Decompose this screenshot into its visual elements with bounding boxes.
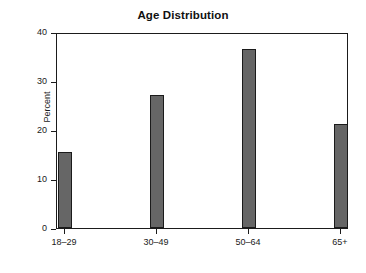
chart-figure: Age Distribution Percent 010203040 18–29…: [0, 0, 366, 273]
bar: [58, 152, 72, 228]
bars-container: [57, 34, 347, 228]
x-tick-mark: [64, 229, 65, 234]
y-tick-label: 0: [42, 224, 47, 233]
bar: [242, 49, 256, 228]
x-tick-mark: [156, 229, 157, 234]
bar: [334, 124, 348, 228]
y-tick-label: 20: [37, 126, 47, 135]
y-tick-label: 40: [37, 28, 47, 37]
x-tick-label: 30–49: [126, 237, 186, 247]
plot-area: [56, 33, 348, 229]
x-tick-label: 50–64: [218, 237, 278, 247]
x-tick-label: 65+: [310, 237, 366, 247]
y-tick-label: 30: [37, 77, 47, 86]
bar: [150, 95, 164, 228]
x-tick-mark: [340, 229, 341, 234]
chart-title: Age Distribution: [0, 9, 366, 22]
y-tick-mark: [51, 229, 56, 230]
x-tick-label: 18–29: [34, 237, 94, 247]
y-tick-label: 10: [37, 175, 47, 184]
x-tick-mark: [248, 229, 249, 234]
